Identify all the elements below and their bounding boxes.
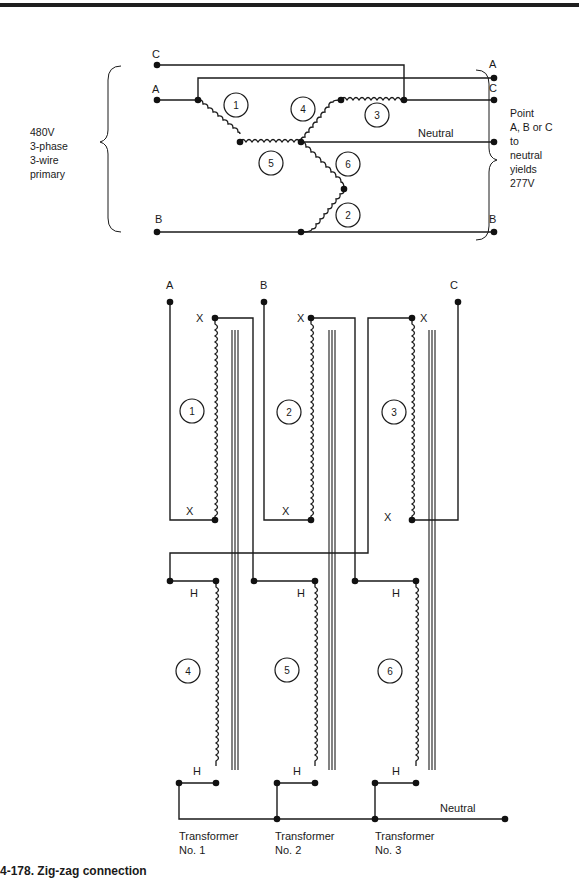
x-winding-1-coil [215, 318, 218, 520]
voltage-note-line: 277V [510, 176, 553, 190]
junction-h4-bottom-left [176, 780, 183, 787]
label-b-left: B [155, 213, 162, 225]
label-x3-top: X [420, 312, 428, 324]
junction-1-5 [237, 139, 244, 146]
svg-text:2: 2 [286, 407, 292, 418]
label-x1-top: X [196, 312, 204, 324]
label-h6-top: H [392, 587, 400, 599]
terminal-c-left [154, 62, 161, 69]
primary-note: 480V 3-phase 3-wire primary [30, 125, 68, 181]
label-h5-top: H [297, 587, 305, 599]
x-winding-label-2: 2 [277, 400, 301, 424]
terminal-a-left [154, 97, 161, 104]
junction-h6-left [352, 578, 359, 585]
voltage-note-line: A, B or C [510, 120, 553, 134]
terminal-x3-top [409, 315, 416, 322]
label-h5-bottom: H [293, 765, 301, 777]
voltage-note-line: to [510, 134, 553, 148]
terminal-b-left [154, 229, 161, 236]
voltage-note: Point A, B or C to neutral yields 277V [510, 106, 553, 190]
zigzag-diagram: C A B A C B Neutral 1 2 3 4 5 6 [0, 0, 579, 879]
junction-h5-bottom-left [274, 780, 281, 787]
terminal-h4-top [213, 578, 220, 585]
label-h6-bottom: H [392, 765, 400, 777]
voltage-note-line: yields [510, 162, 553, 176]
x-winding-3-coil [412, 318, 415, 520]
junction-a [195, 97, 202, 104]
terminal-x1-bottom [212, 517, 219, 524]
junction-neutral-3 [372, 816, 379, 823]
winding-5-coil [240, 140, 301, 143]
label-c-right: C [489, 82, 497, 94]
label-line-a: A [166, 279, 174, 291]
transformer-caption-3: Transformer No. 3 [375, 830, 435, 856]
svg-text:No. 1: No. 1 [179, 844, 205, 856]
svg-text:5: 5 [268, 158, 274, 169]
label-x2-top: X [297, 312, 305, 324]
terminal-h4-bottom [213, 780, 220, 787]
label-c-left: C [152, 48, 160, 60]
terminal-line-b [261, 299, 268, 306]
svg-text:4: 4 [185, 666, 191, 677]
primary-note-line: 3-phase [30, 139, 68, 153]
lower-schematic: A B C [166, 279, 508, 856]
terminal-x2-bottom [308, 517, 315, 524]
winding-label-1: 1 [224, 93, 248, 117]
wire-h5-neutral [277, 783, 375, 819]
junction-6-2 [341, 186, 348, 193]
label-line-b: B [260, 279, 267, 291]
junction-h5-left [251, 578, 258, 585]
label-neutral-upper: Neutral [418, 127, 453, 139]
label-x3-bottom: X [384, 511, 392, 523]
label-a-left: A [152, 83, 160, 95]
svg-text:No. 3: No. 3 [375, 844, 401, 856]
winding-label-6: 6 [336, 152, 360, 176]
svg-text:No. 2: No. 2 [275, 844, 301, 856]
junction-h4-left [167, 578, 174, 585]
svg-text:2: 2 [345, 210, 351, 221]
label-h4-bottom: H [193, 765, 201, 777]
junction-center [298, 139, 305, 146]
junction-h6-bottom-left [372, 780, 379, 787]
transformer-caption-2: Transformer No. 2 [275, 830, 335, 856]
terminal-x2-top [308, 315, 315, 322]
label-a-right: A [489, 58, 497, 70]
svg-text:Transformer: Transformer [375, 830, 435, 842]
winding-label-4: 4 [291, 97, 315, 121]
label-line-c: C [450, 279, 458, 291]
h-winding-label-6: 6 [378, 659, 402, 683]
junction-c [401, 97, 408, 104]
left-brace [100, 66, 121, 232]
x-winding-label-3: 3 [382, 400, 406, 424]
terminal-a-right [491, 75, 498, 82]
label-h4-top: H [190, 587, 198, 599]
terminal-neutral-lower [502, 816, 509, 823]
primary-note-line: 3-wire [30, 153, 68, 167]
label-neutral-lower: Neutral [440, 802, 475, 814]
svg-text:6: 6 [345, 159, 351, 170]
transformer-caption-1: Transformer No. 1 [179, 830, 239, 856]
terminal-neutral-right [491, 139, 498, 146]
terminal-c-right [491, 97, 498, 104]
winding-label-3: 3 [365, 103, 389, 127]
wire-h4-neutral [179, 783, 277, 819]
terminal-x1-top [212, 315, 219, 322]
figure-caption: 4-178. Zig-zag connection [0, 864, 147, 878]
svg-text:3: 3 [391, 407, 397, 418]
svg-text:1: 1 [189, 406, 195, 417]
junction-neutral-2 [274, 816, 281, 823]
winding-label-2: 2 [336, 203, 360, 227]
wire-x3-to-h4 [170, 318, 412, 581]
h-winding-label-5: 5 [275, 658, 299, 682]
svg-text:Transformer: Transformer [275, 830, 335, 842]
junction-b [298, 229, 305, 236]
core-transformer-1 [232, 330, 238, 770]
label-x1-bottom: X [186, 505, 194, 517]
svg-text:4: 4 [300, 104, 306, 115]
winding-3-coil [341, 98, 404, 101]
x-winding-2-coil [311, 318, 314, 520]
terminal-h6-bottom [413, 780, 420, 787]
terminal-h5-top [312, 578, 319, 585]
h-winding-6-coil [416, 581, 419, 766]
label-x2-bottom: X [282, 505, 290, 517]
